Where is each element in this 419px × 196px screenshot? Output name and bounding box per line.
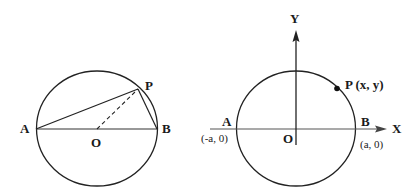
label-p-xy: P (x, y): [345, 77, 384, 92]
label-o-right: O: [283, 131, 293, 146]
left-diagram: A B O P: [20, 71, 171, 186]
label-p: P: [145, 78, 153, 93]
label-a-coord: (-a, 0): [201, 132, 228, 145]
label-b-coord: (a, 0): [360, 138, 384, 151]
radius-op-dashed: [97, 89, 138, 129]
point-p-dot: [334, 86, 340, 92]
label-b: B: [162, 121, 171, 136]
label-a: A: [20, 121, 30, 136]
label-b-right: B: [361, 114, 370, 129]
label-x-axis: X: [392, 121, 402, 136]
label-o: O: [91, 135, 101, 150]
label-y-axis: Y: [290, 11, 300, 26]
chord-ap: [36, 89, 138, 129]
label-a-right: A: [222, 114, 232, 129]
diagram-canvas: A B O P Y X P (x, y) A (-a, 0) B (a, 0) …: [0, 0, 419, 196]
right-diagram: Y X P (x, y) A (-a, 0) B (a, 0) O: [201, 11, 402, 186]
